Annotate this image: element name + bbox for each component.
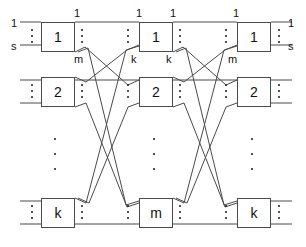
vertical-ellipsis-icon-s2r1-out-dots <box>178 29 181 43</box>
port-label-s1-out-last: m <box>74 54 83 65</box>
switch-module-label: 2 <box>54 85 62 99</box>
switch-module-s3r3[interactable]: k <box>237 198 271 228</box>
switch-module-s1r2[interactable]: 2 <box>41 77 75 107</box>
port-label-s2-out-last: k <box>166 54 172 65</box>
link-w-s1r3-p1-s2r1 <box>75 46 139 203</box>
vertical-ellipsis-icon-s3r2-out-dots <box>277 84 280 98</box>
link-w-s2r3-p1-s3r1 <box>173 46 237 203</box>
switch-module-label: 2 <box>152 85 160 99</box>
port-label-s1-out-first: 1 <box>74 8 80 19</box>
port-label-out-first: 1 <box>288 18 294 29</box>
switch-module-s1r1[interactable]: 1 <box>41 22 75 52</box>
vertical-ellipsis-icon-s3r3-out-dots <box>277 205 280 219</box>
vertical-ellipsis-icon-s2r2-out-dots <box>178 84 181 98</box>
port-label-s2-in-last: k <box>131 54 137 65</box>
switch-module-label: 1 <box>250 30 258 44</box>
port-label-s2-out-first: 1 <box>170 8 176 19</box>
link-w-s1r1-px-s2r3 <box>78 48 139 205</box>
vertical-ellipsis-icon-s3r2-in-dots <box>224 84 227 98</box>
vertical-ellipsis-icon-s1r3-in-dots <box>30 205 33 219</box>
switch-module-label: 1 <box>54 30 62 44</box>
vertical-ellipsis-icon-s3r1-in-dots <box>224 29 227 43</box>
stage1-to-stage2-links <box>75 22 139 224</box>
switch-module-label: 1 <box>152 30 160 44</box>
edge-port-lines <box>20 22 292 224</box>
link-w-s2r2-px-s3r3 <box>173 103 237 207</box>
port-label-s3-in-first: 1 <box>233 8 239 19</box>
port-label-s2-in-first: 1 <box>136 8 142 19</box>
port-label-out-last: s <box>288 41 294 52</box>
port-label-in-first: 1 <box>11 18 17 29</box>
vertical-ellipsis-icon-s2r3-out-dots <box>178 205 181 219</box>
switch-module-s3r1[interactable]: 1 <box>237 22 271 52</box>
vertical-ellipsis-icon-col3-vertical-ellipsis <box>250 138 253 170</box>
switch-module-label: k <box>55 206 62 220</box>
vertical-ellipsis-icon-s1r2-out-dots <box>80 84 83 98</box>
vertical-ellipsis-icon-s1r2-in-dots <box>30 84 33 98</box>
port-label-s3-in-last: m <box>228 54 237 65</box>
link-w-s2r1-px-s3r3 <box>176 48 237 205</box>
port-label-in-last: s <box>11 41 17 52</box>
switch-module-s3r2[interactable]: 2 <box>237 77 271 107</box>
vertical-ellipsis-icon-s2r2-in-dots <box>126 84 129 98</box>
vertical-ellipsis-icon-s3r3-in-dots <box>224 205 227 219</box>
switch-module-s2r3[interactable]: m <box>139 198 173 228</box>
switch-module-label: 2 <box>250 85 258 99</box>
vertical-ellipsis-icon-col2-vertical-ellipsis <box>152 138 155 170</box>
switch-module-s1r3[interactable]: k <box>41 198 75 228</box>
switch-module-s2r1[interactable]: 1 <box>139 22 173 52</box>
clos-network-diagram: 12k12m12k 1s1m1k1k1m1s <box>0 0 306 247</box>
vertical-ellipsis-icon-s1r3-out-dots <box>80 205 83 219</box>
vertical-ellipsis-icon-s1r1-out-dots <box>80 29 83 43</box>
vertical-ellipsis-icon-left-in-dots <box>30 29 33 43</box>
vertical-ellipsis-icon-s2r1-in-dots <box>126 29 129 43</box>
link-w-s1r2-px-s2r3 <box>75 103 139 207</box>
switch-module-s2r2[interactable]: 2 <box>139 77 173 107</box>
link-w-s1r2-p1-s2r1 <box>75 45 139 82</box>
switch-module-label: m <box>150 206 162 220</box>
vertical-ellipsis-icon-s2r3-in-dots <box>126 205 129 219</box>
switch-module-label: k <box>251 206 258 220</box>
vertical-ellipsis-icon-s3r1-out-dots <box>277 29 280 43</box>
vertical-ellipsis-icon-col1-vertical-ellipsis <box>53 138 56 170</box>
